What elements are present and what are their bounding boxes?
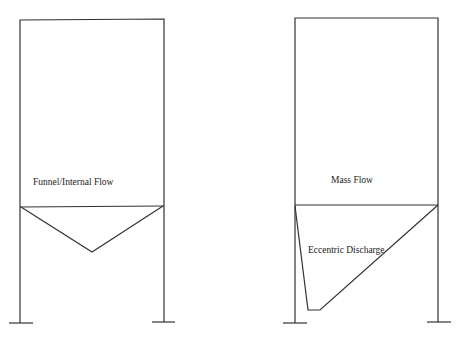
eccentric-discharge-label: Eccentric Discharge xyxy=(308,245,385,255)
silo-bin-outline xyxy=(295,18,438,323)
mass-flow-label: Mass Flow xyxy=(331,175,373,185)
eccentric-hopper xyxy=(295,205,438,310)
hopper-transition-line xyxy=(20,206,164,207)
funnel-flow-label: Funnel/Internal Flow xyxy=(33,177,114,187)
conical-hopper xyxy=(21,206,163,252)
mass-flow-silo xyxy=(283,18,451,323)
silo-bin-outline xyxy=(20,19,164,323)
funnel-flow-silo xyxy=(9,19,175,323)
silo-flow-diagram: Funnel/Internal Flow Mass Flow Eccentric… xyxy=(0,0,462,338)
